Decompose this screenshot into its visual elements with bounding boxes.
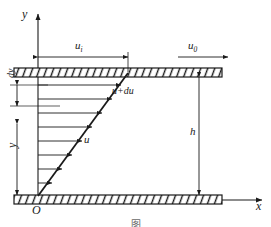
u0-subscript: 0 — [194, 45, 198, 54]
figure-caption: 图 — [0, 216, 271, 227]
u-plus-du-label: u+du — [112, 86, 134, 96]
ui-subscript: i — [81, 45, 83, 54]
x-axis-label: x — [256, 200, 261, 212]
y-distance-label: y — [6, 143, 18, 148]
dy-label: dy — [6, 69, 16, 78]
top-plate — [14, 68, 222, 77]
dy-dimension — [10, 85, 60, 106]
u-label: u — [84, 134, 90, 145]
ui-label: ui — [75, 40, 83, 54]
y-axis-label: y — [22, 8, 27, 20]
origin-label: O — [32, 204, 41, 216]
bottom-plate — [14, 195, 222, 204]
u0-label: u0 — [188, 40, 197, 54]
diagram-canvas — [0, 0, 271, 227]
couette-flow-diagram: y x O ui u0 u+du u h dy y 图 — [0, 0, 271, 227]
h-label: h — [190, 126, 196, 137]
